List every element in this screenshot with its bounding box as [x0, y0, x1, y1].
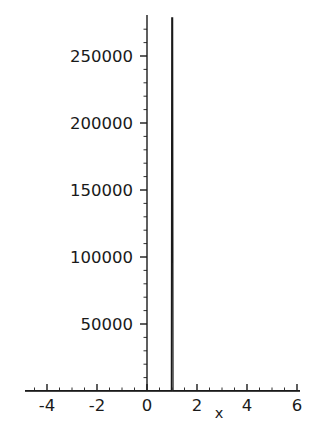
- y-tick-label: 250000: [70, 47, 133, 66]
- x-tick-label: 4: [242, 396, 253, 415]
- plot-canvas: -4 -2 0 2 4 6: [0, 0, 315, 442]
- x-tick-label: -4: [39, 396, 55, 415]
- x-axis-title: x: [215, 405, 224, 421]
- y-tick-label: 50000: [81, 315, 134, 334]
- y-tick-label: 150000: [70, 181, 133, 200]
- x-tick-label: 0: [142, 396, 153, 415]
- x-tick-label: -2: [89, 396, 105, 415]
- x-tick-label: 6: [292, 396, 303, 415]
- plot-figure: -4 -2 0 2 4 6: [0, 0, 315, 442]
- y-tick-label: 100000: [70, 248, 133, 267]
- x-tick-label: 2: [192, 396, 203, 415]
- y-tick-label: 200000: [70, 114, 133, 133]
- plot-background: [0, 0, 315, 442]
